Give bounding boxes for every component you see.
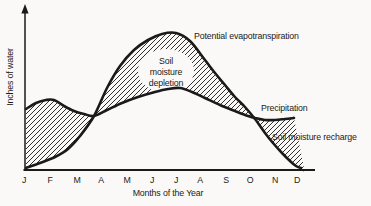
recharge-region xyxy=(255,114,304,172)
pet-curve-label: Potential evapotranspiration xyxy=(194,31,299,41)
y-axis-label: Inches of water xyxy=(5,48,15,106)
svg-text:moisture: moisture xyxy=(150,67,183,77)
month-tick-label: J xyxy=(174,175,178,185)
month-tick-label: O xyxy=(247,175,254,185)
svg-text:depletion: depletion xyxy=(149,78,184,88)
month-tick-label: M xyxy=(123,175,130,185)
month-tick-label: M xyxy=(73,175,80,185)
recharge-label: Soil moisture recharge xyxy=(272,132,357,142)
water-balance-chart: Potential evapotranspiration Precipitati… xyxy=(0,0,371,206)
month-tick-label: J xyxy=(22,175,26,185)
month-tick-label: F xyxy=(47,175,53,185)
month-tick-label: A xyxy=(98,175,104,185)
precipitation-curve-label: Precipitation xyxy=(261,103,308,113)
month-tick-label: N xyxy=(272,175,278,185)
water-balance-figure: Potential evapotranspiration Precipitati… xyxy=(0,0,371,206)
month-tick-label: D xyxy=(294,175,300,185)
month-labels: JFMAMJJASOND xyxy=(22,175,300,185)
month-tick-label: A xyxy=(197,175,203,185)
month-tick-label: J xyxy=(150,175,154,185)
surplus-region xyxy=(26,99,96,168)
y-axis-arrow-icon xyxy=(21,4,28,14)
month-tick-label: S xyxy=(223,175,229,185)
x-axis-label: Months of the Year xyxy=(133,188,204,198)
svg-text:Soil: Soil xyxy=(159,56,173,66)
